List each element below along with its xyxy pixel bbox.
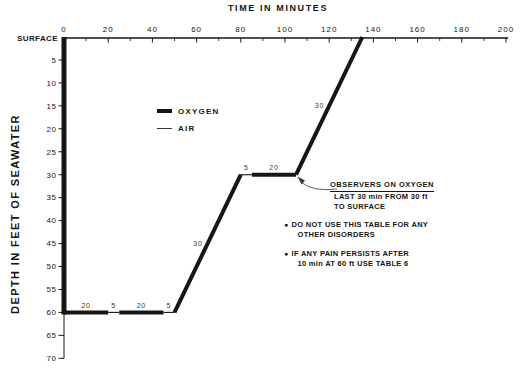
bullet-icon: ● (284, 220, 289, 240)
legend-item-oxygen: OXYGEN (157, 106, 219, 116)
x-tick-label: 40 (147, 25, 158, 34)
segment-duration-label: 20 (81, 302, 90, 309)
legend-label: OXYGEN (178, 107, 219, 116)
segment-duration-label: 30 (315, 102, 324, 109)
legend-label: AIR (178, 124, 195, 133)
segment-duration-label: 20 (269, 164, 278, 171)
treatment-table-chart-page: 0204060801001201401601802005101520253035… (0, 0, 526, 379)
legend-item-air: AIR (157, 123, 219, 133)
x-tick-label: 60 (191, 25, 202, 34)
y-tick-label: 25 (47, 148, 57, 157)
y-tick-label: 15 (47, 102, 57, 111)
y-tick-label: 60 (47, 308, 57, 317)
observers-callout-line: LAST 30 min FROM 30 ft (334, 192, 434, 202)
bullet-icon: ● (284, 249, 289, 269)
x-tick-label: 120 (321, 25, 337, 34)
profile-segment-oxygen (296, 37, 362, 175)
note-do-not-use: ● DO NOT USE THIS TABLE FOR ANY OTHER DI… (284, 220, 494, 240)
y-tick-label: 45 (47, 239, 57, 248)
y-tick-label: 55 (47, 285, 57, 294)
note-line: OTHER DISORDERS (292, 230, 429, 240)
surface-label: SURFACE (17, 34, 58, 43)
segment-duration-label: 5 (167, 302, 172, 309)
y-axis-label: DEPTH IN FEET OF SEAWATER (9, 114, 21, 314)
note-line: 10 min AT 60 ft USE TABLE 6 (292, 259, 409, 269)
y-tick-label: 20 (47, 125, 57, 134)
note-text: IF ANY PAIN PERSISTS AFTER 10 min AT 60 … (292, 249, 409, 269)
observers-callout-title: OBSERVERS ON OXYGEN (330, 180, 434, 192)
x-tick-label: 100 (277, 25, 293, 34)
x-tick-label: 0 (61, 25, 66, 34)
x-tick-label: 200 (498, 25, 514, 34)
segment-duration-label: 5 (244, 164, 249, 171)
note-line: DO NOT USE THIS TABLE FOR ANY (292, 220, 429, 230)
observers-callout-arrowhead (298, 177, 306, 185)
x-tick-label: 20 (103, 25, 114, 34)
segment-duration-label: 20 (137, 302, 146, 309)
observers-callout-line: TO SURFACE (334, 202, 434, 212)
y-tick-label: 50 (47, 262, 57, 271)
oxygen-line-swatch (157, 109, 172, 113)
x-tick-label: 80 (235, 25, 246, 34)
note-text: DO NOT USE THIS TABLE FOR ANY OTHER DISO… (292, 220, 429, 240)
y-tick-label: 35 (47, 193, 57, 202)
y-tick-label: 65 (47, 331, 57, 340)
segment-duration-label: 30 (193, 240, 202, 247)
chart-title: TIME IN MINUTES (228, 3, 328, 13)
y-tick-label: 30 (47, 171, 57, 180)
y-tick-label: 5 (52, 56, 57, 65)
note-line: IF ANY PAIN PERSISTS AFTER (292, 249, 409, 259)
legend: OXYGEN AIR (157, 106, 219, 140)
note-pain-persists: ● IF ANY PAIN PERSISTS AFTER 10 min AT 6… (284, 249, 494, 269)
y-tick-label: 10 (47, 79, 57, 88)
profile-segment-oxygen (175, 175, 241, 313)
observers-callout: OBSERVERS ON OXYGEN LAST 30 min FROM 30 … (330, 180, 434, 212)
x-tick-label: 180 (454, 25, 470, 34)
x-tick-label: 160 (409, 25, 425, 34)
chart-canvas: 0204060801001201401601802005101520253035… (0, 0, 526, 379)
notes-block: ● DO NOT USE THIS TABLE FOR ANY OTHER DI… (284, 220, 494, 278)
x-tick-label: 140 (365, 25, 381, 34)
segment-duration-label: 5 (111, 302, 116, 309)
y-tick-label: 40 (47, 216, 57, 225)
air-line-swatch (157, 128, 172, 129)
y-tick-label: 70 (47, 354, 57, 363)
